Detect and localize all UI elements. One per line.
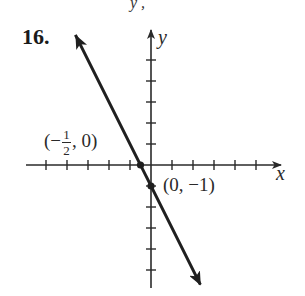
fraction: 12	[62, 128, 71, 157]
point-label-prefix: (−	[44, 130, 61, 151]
point-label-y-intercept: (0, −1)	[163, 174, 215, 196]
data-point	[147, 182, 154, 189]
x-axis-label: x	[276, 162, 285, 185]
fraction-denominator: 2	[63, 144, 70, 157]
point-label-x-intercept: (−12, 0)	[44, 128, 97, 157]
point-label-suffix: , 0)	[72, 130, 97, 151]
plotted-line	[75, 35, 200, 285]
line-series	[75, 35, 200, 285]
y-axis-label: y	[158, 26, 167, 49]
fraction-numerator: 1	[63, 128, 70, 141]
graph-figure: y , 16. x y (−12, 0) (0, −1)	[0, 0, 305, 296]
data-point	[137, 161, 144, 168]
